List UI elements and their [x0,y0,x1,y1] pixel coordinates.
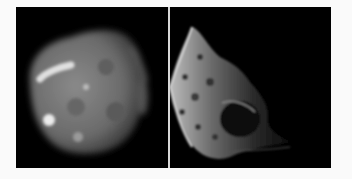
right-moon-photo [170,7,331,168]
left-moon-photo [16,7,168,168]
